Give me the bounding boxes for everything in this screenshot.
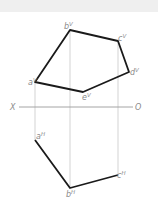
label-e-v: eV	[82, 92, 92, 102]
label-a-v: aV	[28, 77, 38, 87]
label-a-h: aH	[36, 131, 45, 141]
label-b-v: bV	[64, 21, 74, 31]
label-d-v: dV	[130, 67, 140, 77]
projection-diagram: X O bV cV dV eV aV aH bH cH	[0, 0, 158, 210]
construction-lines	[35, 30, 118, 188]
label-c-h: cH	[117, 170, 126, 180]
axis-label-o: O	[135, 103, 141, 112]
label-c-v: cV	[118, 33, 127, 43]
label-b-h: bH	[66, 189, 75, 199]
horizontal-projection-polyline	[35, 140, 118, 188]
axis-label-x: X	[9, 103, 16, 112]
vertical-projection-pentagon	[35, 30, 129, 92]
